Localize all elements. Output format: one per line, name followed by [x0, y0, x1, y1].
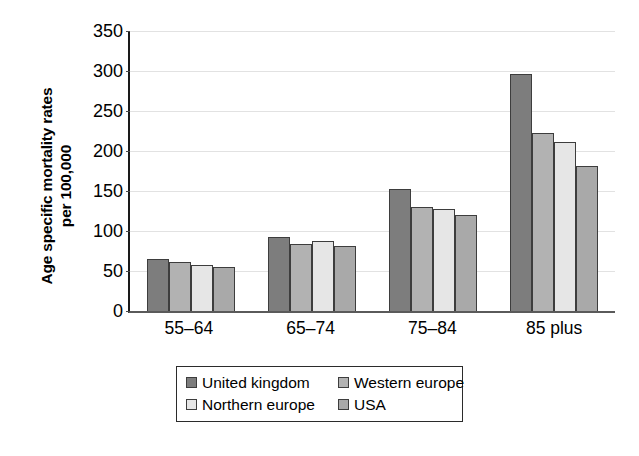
bar-group	[494, 31, 615, 311]
y-axis-tick-label: 250	[93, 102, 123, 120]
bar	[510, 74, 532, 311]
x-axis-labels: 55–6465–7475–8485 plus	[128, 318, 615, 338]
bar-group	[251, 31, 372, 311]
bar	[389, 189, 411, 311]
bar	[334, 246, 356, 311]
bar	[191, 265, 213, 311]
bar	[290, 244, 312, 311]
legend-label: United kingdom	[202, 374, 310, 391]
bar	[312, 241, 334, 311]
y-axis-tick-label: 50	[103, 262, 123, 280]
x-axis-label: 75–84	[372, 318, 494, 338]
x-axis-label: 55–64	[128, 318, 250, 338]
plot-area: 350300250200150100500	[128, 31, 615, 313]
y-axis-tick-label: 350	[93, 22, 123, 40]
bar	[169, 262, 191, 311]
bar-chart: Age specific mortality rates per 100,000…	[0, 0, 639, 456]
y-axis-tick-label: 100	[93, 222, 123, 240]
bar	[268, 237, 290, 311]
bar	[411, 207, 433, 311]
y-axis-tick-label: 200	[93, 142, 123, 160]
chart-legend: United kingdomWestern europeNorthern eur…	[176, 366, 463, 422]
bar	[554, 142, 576, 311]
bar	[532, 133, 554, 311]
bar	[213, 267, 235, 311]
x-axis-label: 65–74	[250, 318, 372, 338]
legend-swatch-icon	[338, 377, 349, 388]
bars-layer	[130, 31, 615, 311]
legend-swatch-icon	[186, 399, 197, 410]
legend-label: Western europe	[354, 374, 464, 391]
y-axis-tick-label: 0	[113, 302, 123, 320]
legend-item[interactable]: USA	[338, 396, 464, 413]
bar-group	[373, 31, 494, 311]
legend-item[interactable]: United kingdom	[186, 374, 338, 391]
y-axis-tick	[126, 311, 130, 312]
legend-label: Northern europe	[202, 396, 315, 413]
bar-group	[130, 31, 251, 311]
y-axis-title-line-1: Age specific mortality rates	[38, 88, 57, 285]
legend-label: USA	[354, 396, 386, 413]
bar	[576, 166, 598, 311]
bar	[433, 209, 455, 311]
bar	[147, 259, 169, 311]
y-axis-tick-label: 150	[93, 182, 123, 200]
legend-swatch-icon	[186, 377, 197, 388]
legend-swatch-icon	[338, 399, 349, 410]
y-axis-tick-label: 300	[93, 62, 123, 80]
x-axis-label: 85 plus	[493, 318, 615, 338]
bar	[455, 215, 477, 311]
y-axis-title-line-2: per 100,000	[57, 145, 76, 227]
y-axis-title: Age specific mortality rates per 100,000	[29, 36, 85, 336]
legend-item[interactable]: Western europe	[338, 374, 464, 391]
legend-item[interactable]: Northern europe	[186, 396, 338, 413]
